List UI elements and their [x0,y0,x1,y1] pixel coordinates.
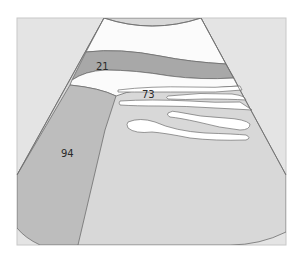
label-73: 73 [142,89,155,100]
ultrasound-diagram: 21 73 94 [0,0,304,259]
label-94: 94 [61,148,74,159]
label-21: 21 [96,61,109,72]
